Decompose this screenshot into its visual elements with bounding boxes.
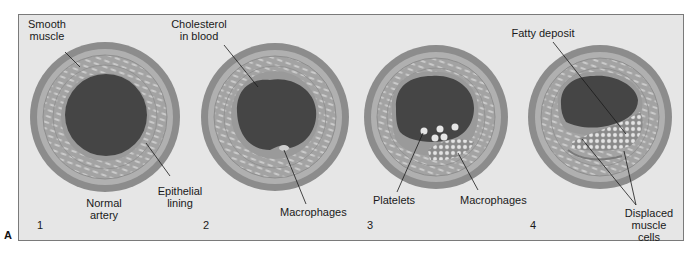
label-displaced-muscle-cells: Displaced muscle cells xyxy=(620,207,678,243)
atherosclerosis-figure: Smooth muscle Epithelial lining Normal a… xyxy=(0,0,700,254)
caption-normal-artery: Normal artery xyxy=(80,197,128,221)
panel-number-3: 3 xyxy=(367,219,373,231)
figure-letter: A xyxy=(4,229,12,241)
panel-number-2: 2 xyxy=(203,219,209,231)
label-macrophages-3: Macrophages xyxy=(460,194,526,206)
label-cholesterol-in-blood: Cholesterol in blood xyxy=(168,18,230,42)
label-smooth-muscle: Smooth muscle xyxy=(24,18,70,42)
panel-number-1: 1 xyxy=(37,219,43,231)
label-epithelial-lining: Epithelial lining xyxy=(152,185,208,209)
panel-number-4: 4 xyxy=(530,219,536,231)
label-macrophages-2: Macrophages xyxy=(280,206,344,218)
label-fatty-deposit: Fatty deposit xyxy=(510,27,576,39)
artery-panel-1 xyxy=(30,42,180,192)
label-platelets: Platelets xyxy=(372,194,416,206)
